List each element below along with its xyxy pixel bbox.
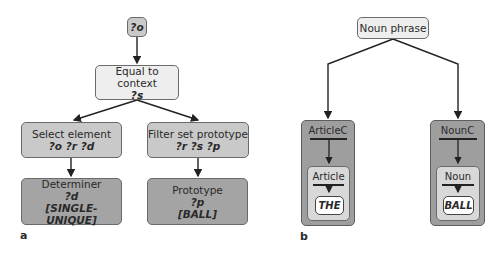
- node-filter-set-prototype: Filter set prototype ?r ?s ?p: [147, 122, 249, 158]
- node-select-element: Select element ?o ?r ?d: [21, 122, 122, 158]
- construction-articlec: ArticleC Article THE: [301, 120, 355, 226]
- arrow-equal-to-select: [74, 100, 137, 120]
- determiner-vars: ?d: [65, 190, 79, 202]
- prototype-vars: ?p: [191, 196, 205, 208]
- word-ball: BALL: [443, 196, 474, 215]
- arrow-equal-to-filter: [137, 100, 198, 120]
- prototype-title: Prototype: [172, 184, 223, 196]
- node-determiner: Determiner ?d [SINGLE-UNIQUE]: [21, 178, 122, 225]
- panel-b-label: b: [300, 230, 308, 243]
- node-equal-to-context: Equal to context ?s: [95, 65, 179, 100]
- construction-noun: Noun BALL: [436, 166, 480, 221]
- arrow-np-to-articlec: [328, 39, 393, 118]
- equal-vars: ?s: [131, 89, 143, 101]
- node-root-var: ?o: [127, 17, 147, 37]
- filter-title: Filter set prototype: [148, 128, 248, 140]
- determiner-title: Determiner: [42, 178, 102, 190]
- determiner-value: [SINGLE-UNIQUE]: [22, 202, 121, 226]
- prototype-value: [BALL]: [178, 208, 217, 220]
- root-var-text: ?o: [130, 21, 143, 33]
- node-prototype: Prototype ?p [BALL]: [147, 178, 248, 225]
- select-vars: ?o ?r ?d: [49, 140, 95, 152]
- filter-vars: ?r ?s ?p: [176, 140, 221, 152]
- construction-article: Article THE: [307, 166, 350, 221]
- arrow-np-to-nounc: [393, 39, 458, 118]
- noun-phrase-title: Noun phrase: [360, 22, 427, 34]
- word-the: THE: [315, 196, 344, 215]
- select-title: Select element: [32, 128, 111, 140]
- equal-title: Equal to context: [96, 65, 178, 89]
- panel-a-label: a: [20, 229, 27, 242]
- construction-nounc: NounC Noun BALL: [430, 120, 485, 226]
- node-noun-phrase: Noun phrase: [357, 17, 429, 39]
